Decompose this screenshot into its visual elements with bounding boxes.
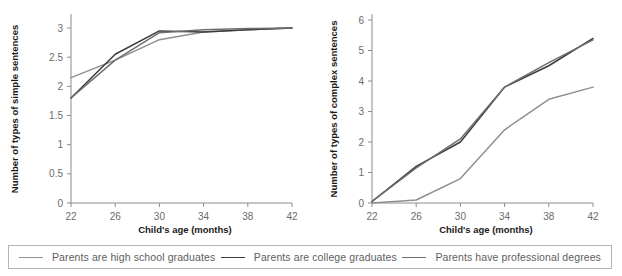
y-tick-label: 1.5 [49,110,63,121]
y-tick-label: 0.5 [49,168,63,179]
y-axis-title-right: Number of types of complex sentences [328,21,339,198]
y-tick-label: 3 [57,23,63,34]
simple-sentences-svg: 00.511.522.53 222630343842 Child's age (… [0,0,311,240]
x-tick-label: 38 [543,211,555,222]
legend-swatch-college [221,257,245,258]
charts-row: 00.511.522.53 222630343842 Child's age (… [0,0,622,240]
y-tick-label: 3 [358,106,364,117]
y-axis-group-right: 0123456 [358,14,372,209]
legend-label-college: Parents are college graduates [254,251,397,263]
x-tick-label: 38 [242,211,254,222]
series-lines-left [71,28,292,98]
x-tick-labels-right: 222630343842 [366,211,599,222]
x-tick-label: 26 [411,211,423,222]
y-tick-label: 5 [358,45,364,56]
y-tick-label: 2.5 [49,52,63,63]
x-tick-marks-left [71,203,292,207]
y-tick-label: 2 [358,137,364,148]
x-axis-group-right: 222630343842 [366,203,599,222]
figure-container: 00.511.522.53 222630343842 Child's age (… [0,0,622,276]
series-line [71,28,292,98]
chart-panel-complex-sentences: 0123456 222630343842 Child's age (months… [311,0,622,240]
y-tick-label: 2 [57,81,63,92]
y-tick-marks-left [67,28,71,203]
y-axis-group-left: 00.511.522.53 [49,14,71,209]
x-tick-label: 42 [286,211,298,222]
series-lines-right [372,38,593,203]
x-tick-label: 42 [587,211,599,222]
series-line [71,28,292,98]
legend-swatch-professional [402,257,426,258]
y-tick-label: 4 [358,76,364,87]
legend-swatch-high-school [19,257,43,258]
y-tick-label: 1 [358,167,364,178]
series-line [372,87,593,203]
y-tick-label: 0 [358,198,364,209]
y-axis-title-left: Number of types of simple sentences [9,25,20,193]
y-tick-labels-left: 00.511.522.53 [49,23,63,209]
series-line [372,40,593,202]
x-axis-title-right: Child's age (months) [439,224,533,235]
x-axis-title-left: Child's age (months) [138,224,232,235]
legend-label-professional: Parents have professional degrees [435,251,601,263]
legend-item-college[interactable]: Parents are college graduates [221,251,397,263]
chart-panel-simple-sentences: 00.511.522.53 222630343842 Child's age (… [0,0,311,240]
y-tick-labels-right: 0123456 [358,15,364,209]
y-tick-label: 1 [57,139,63,150]
x-tick-label: 34 [499,211,511,222]
legend-label-high-school: Parents are high school graduates [52,251,215,263]
x-tick-labels-left: 222630343842 [65,211,298,222]
x-tick-marks-right [372,203,593,207]
x-tick-label: 26 [110,211,122,222]
legend-item-professional[interactable]: Parents have professional degrees [402,251,601,263]
complex-sentences-svg: 0123456 222630343842 Child's age (months… [311,0,622,240]
y-tick-marks-right [368,20,372,203]
y-tick-label: 0 [57,198,63,209]
x-tick-label: 22 [65,211,77,222]
x-tick-label: 22 [366,211,378,222]
legend-item-high-school[interactable]: Parents are high school graduates [19,251,215,263]
x-tick-label: 34 [198,211,210,222]
y-tick-label: 6 [358,15,364,26]
x-axis-group-left: 222630343842 [65,203,298,222]
x-tick-label: 30 [455,211,467,222]
x-tick-label: 30 [154,211,166,222]
chart-legend: Parents are high school graduates Parent… [8,245,612,269]
